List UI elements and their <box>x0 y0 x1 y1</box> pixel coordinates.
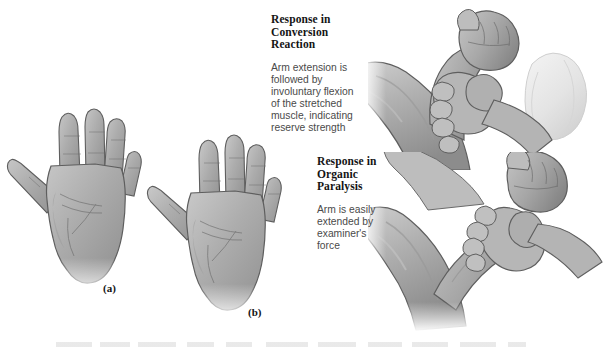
scanned-caption-remnant <box>56 342 526 347</box>
callout-conversion-reaction: Response in Conversion Reaction Arm exte… <box>271 13 383 134</box>
callout-organic-body: Arm is easily extended by examiner's for… <box>317 204 409 252</box>
callout-organic-heading: Response in Organic Paralysis <box>317 155 409 193</box>
callout-conversion-body: Arm extension is followed by involuntary… <box>271 62 383 135</box>
patient-clenched-fist-organic <box>507 152 568 212</box>
panel-label-b: (b) <box>248 306 261 318</box>
panel-label-a: (a) <box>103 282 116 294</box>
patient-clenched-fist-conversion <box>457 9 519 70</box>
medical-figure-conversion-vs-organic-paralysis: Response in Conversion Reaction Arm exte… <box>0 0 604 349</box>
examiner-grip-hand-organic <box>463 206 602 278</box>
callout-organic-paralysis: Response in Organic Paralysis Arm is eas… <box>317 155 409 252</box>
arm-fade-bottom-lower <box>388 302 508 332</box>
callout-conversion-heading: Response in Conversion Reaction <box>271 13 383 51</box>
illustration-arm-conversion-reaction <box>368 2 604 170</box>
illustration-open-hand-a <box>4 108 150 298</box>
hand-b-silhouette <box>147 135 281 310</box>
illustration-open-hand-b <box>146 132 292 322</box>
hand-a-silhouette <box>7 109 141 283</box>
